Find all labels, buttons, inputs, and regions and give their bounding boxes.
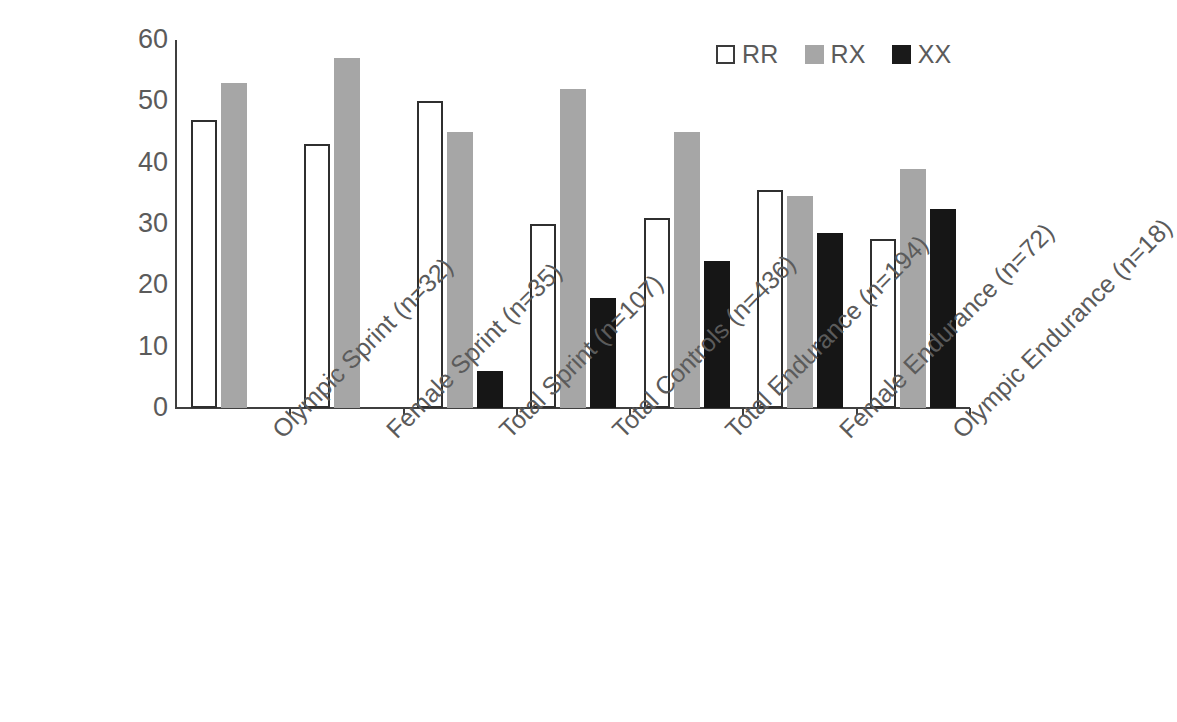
y-tick-label: 30 xyxy=(138,210,168,237)
y-tick-label: 50 xyxy=(138,87,168,114)
bar-xx xyxy=(477,371,503,408)
bar-rx xyxy=(221,83,247,408)
y-tick-label: 10 xyxy=(138,333,168,360)
bar-rr xyxy=(191,120,217,408)
y-tick-label: 20 xyxy=(138,271,168,298)
y-tick-label: 60 xyxy=(138,26,168,53)
bar-group xyxy=(177,40,290,408)
x-axis-label: Olympic Endurance (n=18) xyxy=(948,214,1176,442)
y-tick-label: 40 xyxy=(138,149,168,176)
x-axis-category-labels: Olympic Sprint (n=32)Female Sprint (n=35… xyxy=(0,409,993,709)
y-axis-tick-labels: 0102030405060 xyxy=(112,25,168,423)
